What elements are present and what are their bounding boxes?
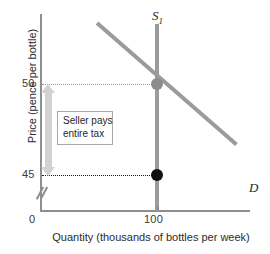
equilibrium-point (151, 78, 163, 90)
supply-curve-label: S1 (152, 8, 163, 26)
x-tick-label-100: 100 (144, 213, 163, 225)
tax-incidence-arrow-icon (41, 84, 55, 176)
supply-curve (155, 24, 159, 211)
tax-incidence-note-line2: entire tax (63, 128, 108, 141)
x-axis-line (40, 210, 250, 212)
x-tick-mark-100 (157, 206, 159, 212)
x-axis-title: Quantity (thousands of bottles per week) (40, 231, 262, 243)
supply-demand-chart: S1 D Seller pays entire tax 50 45 0 100 … (0, 0, 270, 254)
y-tick-label-45: 45 (22, 168, 35, 180)
y-axis-title: Price (pence per bottle) (26, 6, 38, 166)
origin-label: 0 (29, 213, 35, 225)
y-axis-break-icon (34, 184, 50, 202)
seller-net-price-point (151, 169, 163, 181)
tax-incidence-note-line1: Seller pays (63, 115, 108, 128)
supply-curve-label-subscript: 1 (159, 16, 164, 26)
demand-curve-label: D (249, 180, 258, 196)
price-50-guide-line (42, 84, 158, 85)
tax-incidence-note: Seller pays entire tax (57, 111, 113, 145)
price-45-guide-line (42, 175, 158, 176)
